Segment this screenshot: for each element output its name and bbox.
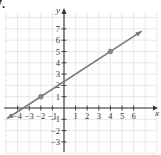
x-tick-label: 6	[131, 111, 135, 121]
coordinate-plane-chart: −4−3−2−1123456−3−2−11234567xy	[0, 0, 161, 155]
x-tick-label: 5	[120, 111, 124, 121]
graph-line	[7, 31, 142, 118]
y-tick-label: −2	[51, 126, 60, 136]
x-tick-label: −3	[25, 111, 34, 121]
y-tick-label: 5	[56, 47, 60, 57]
y-axis-arrow-icon	[62, 8, 67, 14]
x-tick-label: 4	[108, 111, 113, 121]
x-tick-label: 3	[97, 111, 101, 121]
y-tick-label: 3	[56, 69, 60, 79]
y-tick-label: −1	[51, 114, 60, 124]
data-point	[38, 94, 43, 99]
tick-labels: −4−3−2−1123456−3−2−11234567xy	[13, 5, 159, 147]
x-tick-label: 1	[73, 111, 77, 121]
x-tick-label: −2	[36, 111, 45, 121]
y-tick-label: 6	[56, 35, 60, 45]
line-series	[7, 31, 142, 118]
y-tick-label: 1	[56, 92, 60, 102]
y-axis-label: y	[55, 5, 60, 15]
y-tick-label: 7	[56, 24, 60, 34]
x-tick-label: −4	[13, 111, 23, 121]
y-tick-label: −3	[51, 137, 60, 147]
x-tick-label: 2	[85, 111, 89, 121]
grid-lines	[4, 12, 157, 153]
data-point	[108, 49, 113, 54]
x-axis-label: x	[154, 108, 159, 118]
